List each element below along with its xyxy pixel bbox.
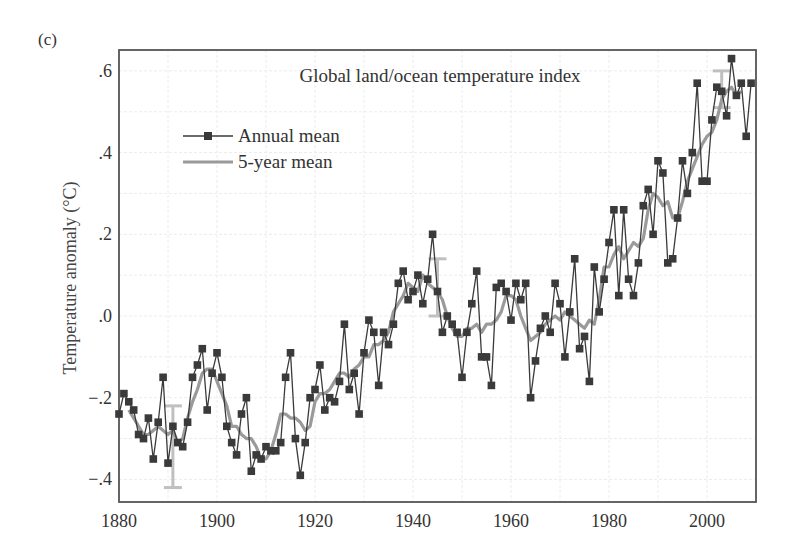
legend-five-year-label: 5-year mean	[238, 151, 333, 172]
data-point-marker	[350, 369, 358, 377]
data-point-marker	[502, 288, 510, 296]
data-point-marker	[659, 169, 667, 177]
data-point-marker	[448, 320, 456, 328]
data-point-marker	[595, 308, 603, 316]
data-point-marker	[199, 345, 207, 353]
data-point-marker	[439, 329, 447, 337]
data-point-marker	[679, 157, 687, 165]
data-point-marker	[154, 418, 162, 426]
y-tick-label: −.4	[88, 469, 112, 489]
data-point-marker	[145, 414, 153, 422]
data-point-marker	[517, 296, 525, 304]
data-point-marker	[561, 353, 569, 361]
y-tick-label: .0	[99, 306, 113, 326]
data-point-marker	[424, 275, 432, 283]
y-tick-label: −.2	[88, 388, 112, 408]
data-point-marker	[551, 280, 559, 288]
data-point-marker	[733, 92, 741, 100]
data-point-marker	[365, 316, 373, 324]
data-point-marker	[130, 406, 138, 414]
data-point-marker	[483, 353, 491, 361]
data-point-marker	[600, 275, 608, 283]
data-point-marker	[497, 280, 505, 288]
x-tick-label: 1980	[591, 511, 627, 531]
data-point-marker	[586, 378, 594, 386]
data-point-marker	[723, 112, 731, 120]
y-axis-ticks: −.4−.2.0.2.4.6	[88, 61, 112, 490]
data-point-marker	[409, 288, 417, 296]
x-tick-label: 1920	[297, 511, 333, 531]
data-point-marker	[654, 157, 662, 165]
data-point-marker	[669, 255, 677, 263]
y-tick-label: .4	[99, 143, 113, 163]
data-point-marker	[473, 267, 481, 275]
data-point-marker	[429, 231, 437, 239]
data-point-marker	[444, 312, 452, 320]
x-tick-label: 2000	[689, 511, 725, 531]
x-tick-label: 1940	[395, 511, 431, 531]
data-point-marker	[243, 394, 251, 402]
y-tick-label: .6	[99, 61, 113, 81]
data-point-marker	[179, 443, 187, 451]
data-point-marker	[184, 418, 192, 426]
data-point-marker	[556, 300, 564, 308]
data-point-marker	[463, 329, 471, 337]
data-point-marker	[390, 320, 398, 328]
data-point-marker	[458, 374, 466, 382]
data-point-marker	[228, 439, 236, 447]
data-point-marker	[605, 239, 613, 247]
data-point-marker	[512, 280, 520, 288]
data-point-marker	[248, 467, 256, 475]
data-point-marker	[571, 255, 579, 263]
x-tick-label: 1880	[101, 511, 137, 531]
data-point-marker	[468, 300, 476, 308]
data-point-marker	[150, 455, 158, 463]
data-point-marker	[399, 267, 407, 275]
data-point-marker	[257, 455, 265, 463]
data-point-marker	[684, 190, 692, 198]
data-point-marker	[507, 316, 515, 324]
data-point-marker	[223, 423, 231, 431]
data-point-marker	[703, 177, 711, 185]
data-point-marker	[346, 386, 354, 394]
data-point-marker	[434, 288, 442, 296]
x-axis-ticks: 1880190019201940196019802000	[101, 511, 725, 531]
data-point-marker	[414, 271, 422, 279]
data-point-marker	[620, 206, 628, 214]
annual-mean-line	[119, 59, 751, 476]
data-point-marker	[238, 410, 246, 418]
data-point-marker	[542, 312, 550, 320]
data-point-marker	[453, 329, 461, 337]
data-point-marker	[336, 378, 344, 386]
x-tick-label: 1960	[493, 511, 529, 531]
data-point-marker	[341, 320, 349, 328]
data-point-marker	[532, 357, 540, 365]
data-point-marker	[194, 361, 202, 369]
data-point-marker	[615, 292, 623, 300]
data-point-marker	[164, 459, 172, 467]
data-point-marker	[360, 349, 368, 357]
data-point-marker	[395, 280, 403, 288]
data-point-marker	[591, 263, 599, 271]
y-tick-label: .2	[99, 224, 113, 244]
data-point-marker	[159, 374, 167, 382]
data-point-marker	[140, 435, 148, 443]
data-point-marker	[306, 394, 314, 402]
data-point-marker	[355, 410, 363, 418]
data-point-marker	[297, 472, 305, 480]
data-point-marker	[218, 374, 226, 382]
data-point-marker	[738, 79, 746, 87]
data-point-marker	[189, 374, 197, 382]
data-point-marker	[385, 341, 393, 349]
data-point-marker	[311, 386, 319, 394]
data-point-marker	[649, 231, 657, 239]
data-point-marker	[708, 116, 716, 124]
data-point-marker	[674, 214, 682, 222]
data-point-marker	[742, 133, 750, 141]
data-point-marker	[576, 345, 584, 353]
data-point-marker	[272, 447, 280, 455]
data-point-marker	[718, 88, 726, 96]
data-point-marker	[635, 259, 643, 267]
data-point-marker	[292, 435, 300, 443]
data-point-marker	[630, 292, 638, 300]
